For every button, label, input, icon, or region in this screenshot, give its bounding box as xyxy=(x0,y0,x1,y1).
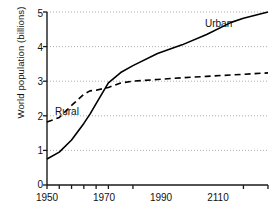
series-line-urban xyxy=(47,12,268,159)
line-chart-figure: World population (billions) 5 4 3 2 1 0 … xyxy=(0,0,273,223)
plot-area xyxy=(0,0,273,223)
series-line-rural xyxy=(47,73,268,122)
